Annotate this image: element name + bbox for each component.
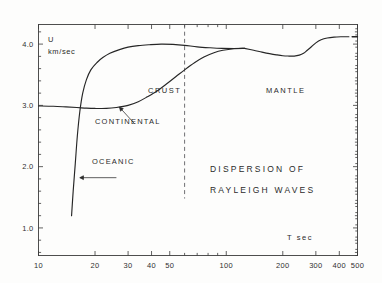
figure-title-line-1: DISPERSION OF [210, 165, 305, 175]
x-tick-label: 20 [91, 261, 100, 270]
plot-canvas: 1020304050100200300400500 1.02.03.04.0 [0, 0, 382, 283]
curve-mantle-branch [244, 37, 348, 56]
x-tick-label: 300 [309, 261, 322, 270]
y-axis-ticks [39, 32, 44, 253]
curve-label-continental: CONTINENTAL [95, 118, 161, 127]
y-axis-label-symbol: U [48, 36, 54, 45]
x-tick-label: 10 [34, 261, 43, 270]
y-axis-ticks-right [353, 29, 358, 256]
x-tick-label: 500 [351, 261, 364, 270]
x-axis-ticks [39, 251, 358, 256]
x-tick-label: 30 [124, 261, 133, 270]
y-axis-label-units: km/sec [48, 48, 75, 57]
figure-dispersion-rayleigh-waves: 1020304050100200300400500 1.02.03.04.0 U… [0, 0, 382, 283]
y-tick-label: 2.0 [22, 162, 33, 171]
x-axis-ticks-top [39, 25, 358, 30]
x-tick-label: 50 [165, 261, 174, 270]
curve-continental [39, 48, 245, 108]
figure-title-line-2: RAYLEIGH WAVES [210, 186, 315, 196]
x-tick-label: 200 [276, 261, 289, 270]
x-tick-label: 40 [147, 261, 156, 270]
y-tick-label: 3.0 [22, 101, 33, 110]
region-label-crust: CRUST [148, 87, 181, 96]
x-axis-label: T sec [287, 234, 313, 243]
y-axis-tick-labels: 1.02.03.04.0 [22, 40, 33, 233]
region-label-mantle: MANTLE [266, 87, 305, 96]
y-tick-label: 1.0 [22, 224, 33, 233]
x-tick-label: 100 [220, 261, 233, 270]
callout-oceanic-arrowhead [80, 176, 84, 180]
x-axis-tick-labels: 1020304050100200300400500 [34, 261, 364, 270]
y-tick-label: 4.0 [22, 40, 33, 49]
curve-label-oceanic: OCEANIC [92, 158, 135, 167]
axes-frame [39, 24, 359, 256]
x-tick-label: 400 [333, 261, 346, 270]
